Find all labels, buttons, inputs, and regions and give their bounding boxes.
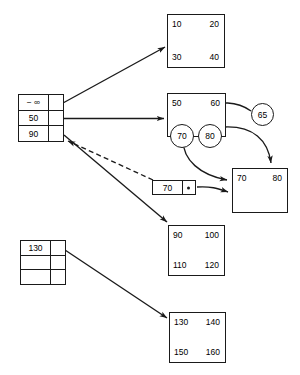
leaf-10-40-value-tl: 10 [172, 20, 181, 29]
secondary-pointer-1[interactable] [51, 256, 65, 270]
edge-smallnode-ptr-to-leaf-70-80 [197, 187, 228, 192]
leaf-130-160-value-br: 160 [206, 348, 220, 357]
circle-65-label: 65 [258, 110, 267, 120]
edge-root2-to-leaf-90-120 [64, 135, 167, 222]
root-pointer-2[interactable] [49, 126, 63, 141]
edge-root0-to-leaf-10-40 [63, 47, 165, 103]
circle-value-80[interactable]: 80 [198, 124, 222, 148]
secondary-row-2[interactable] [21, 270, 65, 284]
leaf-10-40-value-tr: 20 [210, 20, 219, 29]
root-row-1[interactable]: 50 [19, 111, 63, 127]
leaf-10-40-value-br: 40 [210, 53, 219, 62]
leaf-90-120-value-bl: 110 [173, 261, 187, 270]
leaf-10-40-value-bl: 30 [172, 53, 181, 62]
root-key-1: 50 [19, 111, 49, 126]
circle-80-label: 80 [205, 131, 214, 141]
inserted-separator-node[interactable]: 70 [152, 180, 196, 195]
leaf-90-120-value-tl: 90 [173, 231, 182, 240]
secondary-row-1[interactable] [21, 256, 65, 271]
leaf-50-60-value-tl: 50 [172, 99, 181, 108]
secondary-row-0[interactable]: 130 [21, 241, 65, 256]
root-index-node[interactable]: − ∞ 50 90 [18, 94, 64, 142]
leaf-node-10-40[interactable]: 10 20 30 40 [167, 14, 225, 68]
secondary-key-0: 130 [21, 241, 51, 255]
secondary-index-node[interactable]: 130 [20, 240, 66, 285]
secondary-pointer-0[interactable] [51, 241, 65, 255]
root-pointer-1[interactable] [49, 111, 63, 126]
leaf-130-160-value-tr: 140 [206, 318, 220, 327]
edge-circle80-to-leaf-70-80 [225, 127, 271, 163]
secondary-key-1 [21, 256, 51, 270]
separator-key-70: 70 [153, 181, 183, 194]
leaf-90-120-value-br: 120 [205, 261, 219, 270]
circle-70-label: 70 [177, 131, 186, 141]
root-row-2[interactable]: 90 [19, 126, 63, 141]
leaf-70-80-value-tl: 70 [237, 174, 246, 183]
root-row-0[interactable]: − ∞ [19, 95, 63, 111]
circle-value-70[interactable]: 70 [170, 124, 194, 148]
leaf-70-80-value-tr: 80 [273, 174, 282, 183]
leaf-node-90-120[interactable]: 90 100 110 120 [168, 225, 225, 276]
leaf-90-120-value-tr: 100 [205, 231, 219, 240]
leaf-node-130-160[interactable]: 130 140 150 160 [169, 312, 226, 363]
leaf-130-160-value-bl: 150 [174, 348, 188, 357]
leaf-node-70-80[interactable]: 70 80 [232, 168, 288, 213]
secondary-pointer-2[interactable] [51, 270, 65, 284]
separator-pointer[interactable] [183, 181, 195, 194]
leaf-50-60-value-tr: 60 [211, 99, 220, 108]
edge-index130-to-leaf-130-160 [62, 248, 167, 318]
root-pointer-0[interactable] [49, 95, 63, 110]
root-key-0: − ∞ [19, 95, 49, 110]
secondary-key-2 [21, 270, 51, 284]
circle-value-65[interactable]: 65 [251, 103, 274, 126]
diagram-canvas: − ∞ 50 90 130 10 20 30 40 [0, 0, 300, 375]
leaf-130-160-value-tl: 130 [174, 318, 188, 327]
root-key-2: 90 [19, 126, 49, 141]
